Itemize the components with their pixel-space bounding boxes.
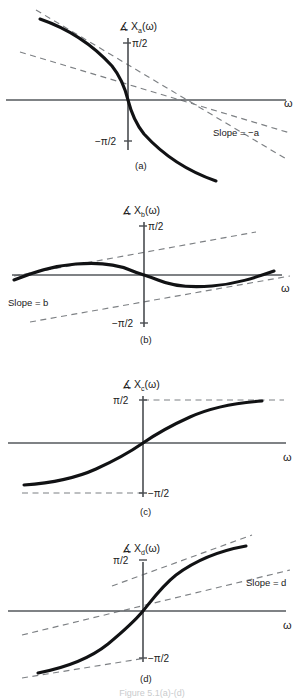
panel-a-xlabel: ω	[284, 97, 293, 109]
panel-c-xlabel: ω	[283, 451, 292, 463]
panel-d-asymptote-upper	[112, 535, 252, 586]
panel-d-tick-pos-label: π/2	[113, 555, 129, 566]
panel-b-ylabel: ∡Xb(ω)	[122, 204, 160, 218]
panel-b-angle-symbol: ∡	[122, 204, 132, 216]
panel-b-xlabel: ω	[281, 282, 290, 294]
svg-text:∡Xd(ω): ∡Xd(ω)	[122, 542, 160, 556]
panel-d-asymptote-lower	[22, 658, 146, 678]
panel-d-slope-label: Slope = d	[246, 577, 286, 588]
panel-c-ylabel-prefix: X	[134, 378, 141, 390]
panel-b-slope-label: Slope = b	[8, 297, 48, 308]
panel-a-slope-label: Slope = −a	[213, 127, 260, 138]
panel-b: ∡Xb(ω) π/2 −π/2 ω Slope = b (b)	[8, 204, 290, 345]
panel-c-angle-symbol: ∡	[122, 378, 132, 390]
phase-response-figure: ∡Xa(ω) π/2 −π/2 ω Slope = −a (a) ∡Xb(ω) …	[0, 0, 304, 698]
panel-d-ylabel: ∡Xd(ω)	[122, 542, 160, 556]
panel-d-ylabel-prefix: X	[134, 542, 141, 554]
figure-bottom-caption: Figure 5.1(a)-(d)	[119, 688, 185, 698]
panel-d-curve	[38, 546, 246, 673]
panel-a-caption: (a)	[135, 160, 147, 171]
panel-b-ylabel-prefix: X	[134, 204, 141, 216]
panel-b-tick-pos-label: π/2	[148, 221, 164, 232]
panel-a-ylabel-prefix: X	[131, 20, 138, 32]
figure-svg: ∡Xa(ω) π/2 −π/2 ω Slope = −a (a) ∡Xb(ω) …	[0, 0, 304, 698]
panel-a-asymptote-lower	[20, 52, 290, 133]
panel-d-angle-symbol: ∡	[122, 542, 132, 554]
panel-b-ylabel-suffix: (ω)	[145, 204, 160, 216]
panel-a-tick-pos-label: π/2	[132, 38, 148, 49]
panel-d-ylabel-suffix: (ω)	[145, 542, 160, 554]
panel-a-ylabel-suffix: (ω)	[142, 20, 157, 32]
panel-a-angle-symbol: ∡	[119, 20, 129, 32]
panel-b-tick-neg-label: −π/2	[112, 318, 134, 329]
svg-text:∡Xc(ω): ∡Xc(ω)	[122, 378, 160, 392]
panel-c-caption: (c)	[140, 506, 151, 517]
panel-c-tick-neg-label: −π/2	[148, 488, 170, 499]
panel-c-ylabel: ∡Xc(ω)	[122, 378, 160, 392]
panel-c-tick-pos-label: π/2	[113, 395, 129, 406]
panel-d-caption: (d)	[140, 673, 152, 684]
panel-d-xlabel: ω	[283, 619, 292, 631]
svg-text:∡Xa(ω): ∡Xa(ω)	[119, 20, 157, 34]
panel-a-ylabel: ∡Xa(ω)	[119, 20, 157, 34]
panel-c: ∡Xc(ω) π/2 −π/2 ω (c)	[8, 378, 292, 517]
panel-a-tick-neg-label: −π/2	[95, 136, 117, 147]
panel-c-ylabel-suffix: (ω)	[145, 378, 160, 390]
panel-b-asymptote-lower	[30, 276, 290, 322]
panel-a: ∡Xa(ω) π/2 −π/2 ω Slope = −a (a)	[6, 10, 293, 181]
svg-text:∡Xb(ω): ∡Xb(ω)	[122, 204, 160, 218]
panel-b-caption: (b)	[140, 334, 152, 345]
panel-d: ∡Xd(ω) π/2 −π/2 ω Slope = d (d)	[8, 535, 292, 684]
panel-d-tick-neg-label: −π/2	[148, 653, 170, 664]
